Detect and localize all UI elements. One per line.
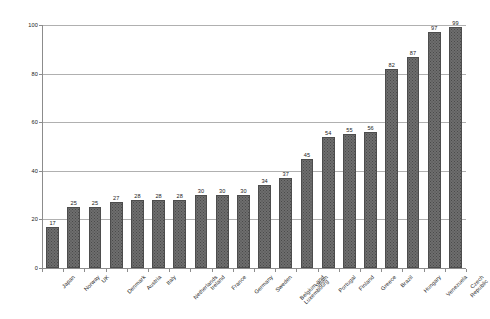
bar-value-label: 45 [304, 151, 310, 159]
x-axis-tick-mark [254, 269, 255, 272]
bar-slot: 30 [237, 25, 250, 268]
bar [173, 200, 186, 268]
bar-slot: 30 [195, 25, 208, 268]
bars-layer: 1725252728282830303034374554555682879799 [42, 25, 466, 268]
x-axis-tick-mark [424, 269, 425, 272]
category-label: Sweden [274, 274, 293, 293]
bar [237, 195, 250, 268]
category-label: Czech Republic [465, 274, 490, 299]
bar [46, 227, 59, 268]
bar-slot: 55 [343, 25, 356, 268]
x-axis-tick-mark [84, 269, 85, 272]
category-label: Netherlands [192, 274, 219, 301]
bar-value-label: 34 [261, 177, 267, 185]
bar-slot: 17 [46, 25, 59, 268]
bar-slot: 56 [364, 25, 377, 268]
bar-value-label: 17 [49, 219, 55, 227]
y-axis-tick-label: 20 [32, 216, 38, 222]
bar [152, 200, 165, 268]
bar-value-label: 55 [346, 126, 352, 134]
bar-value-label: 30 [219, 187, 225, 195]
bar [279, 178, 292, 268]
category-label: Greece [379, 274, 397, 292]
bar-value-label: 37 [283, 170, 289, 178]
category-label: Venezuela [445, 274, 469, 298]
category-label: Finland [358, 274, 376, 292]
bar-value-label: 97 [431, 24, 437, 32]
category-label: France [230, 274, 247, 291]
category-label: Hungary [422, 274, 442, 294]
x-axis-tick-mark [275, 269, 276, 272]
bar-slot: 97 [428, 25, 441, 268]
category-label: Brazil [399, 274, 414, 289]
x-axis-tick-mark [169, 269, 170, 272]
category-label: Japan [60, 274, 76, 290]
x-axis-tick-mark [402, 269, 403, 272]
x-axis-tick-mark [296, 269, 297, 272]
bar-slot: 25 [89, 25, 102, 268]
x-axis-tick-mark [381, 269, 382, 272]
category-label: Italy [165, 274, 177, 286]
x-axis-tick-mark [233, 269, 234, 272]
bar-value-label: 30 [198, 187, 204, 195]
bar-slot: 87 [407, 25, 420, 268]
y-axis-tick-label: 60 [32, 119, 38, 125]
x-axis-tick-mark [190, 269, 191, 272]
bar-value-label: 99 [452, 19, 458, 27]
bar-value-label: 27 [113, 194, 119, 202]
x-axis-tick-mark [106, 269, 107, 272]
x-axis-tick-mark [360, 269, 361, 272]
bar [343, 134, 356, 268]
bar-slot: 45 [301, 25, 314, 268]
bar [322, 137, 335, 268]
bar-value-label: 25 [71, 199, 77, 207]
bar [449, 27, 462, 268]
bar-value-label: 82 [389, 61, 395, 69]
x-axis-tick-mark [318, 269, 319, 272]
x-axis-tick-mark [63, 269, 64, 272]
y-axis-tick-label: 100 [28, 22, 38, 28]
bar-slot: 82 [385, 25, 398, 268]
bar [301, 159, 314, 268]
x-axis-tick-mark [127, 269, 128, 272]
bar [110, 202, 123, 268]
category-label: Austria [146, 274, 163, 291]
bar [428, 32, 441, 268]
y-axis-tick-label: 40 [32, 168, 38, 174]
bar [364, 132, 377, 268]
bar-value-label: 28 [177, 192, 183, 200]
x-axis-tick-mark [148, 269, 149, 272]
x-axis-tick-mark [42, 269, 43, 272]
bar-value-label: 28 [155, 192, 161, 200]
category-label: Portugal [338, 274, 358, 294]
bar [67, 207, 80, 268]
category-label: UK [100, 274, 110, 284]
bar-slot: 28 [173, 25, 186, 268]
bar [258, 185, 271, 268]
bar-value-label: 28 [134, 192, 140, 200]
bar [216, 195, 229, 268]
bar-value-label: 54 [325, 129, 331, 137]
bar-slot: 28 [131, 25, 144, 268]
bar-value-label: 87 [410, 49, 416, 57]
category-label: Denmark [126, 274, 147, 295]
y-axis-tick-label: 80 [32, 71, 38, 77]
x-axis-tick-mark [445, 269, 446, 272]
bar-slot: 37 [279, 25, 292, 268]
bar-slot: 27 [110, 25, 123, 268]
bar-slot: 54 [322, 25, 335, 268]
bar [407, 57, 420, 268]
bar [131, 200, 144, 268]
bar-slot: 99 [449, 25, 462, 268]
bar [195, 195, 208, 268]
category-label: Ireland [209, 274, 226, 291]
bar-slot: 34 [258, 25, 271, 268]
y-axis-tick-label: 0 [35, 265, 38, 271]
bar-slot: 28 [152, 25, 165, 268]
bar-slot: 25 [67, 25, 80, 268]
category-label: Spain [314, 274, 329, 289]
category-label: Belgium and Luxembourg [298, 274, 330, 306]
x-axis-tick-mark [212, 269, 213, 272]
category-label: Norway [83, 274, 101, 292]
